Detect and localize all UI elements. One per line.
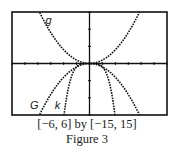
curve-label-g: g [46,14,53,26]
figure-label: Figure 3 [0,132,174,147]
window-caption: [−6, 6] by [−15, 15] [0,117,174,132]
figure: gGk [−6, 6] by [−15, 15] Figure 3 [0,0,174,159]
curve-label-k: k [55,99,61,111]
curve-label-G: G [30,99,39,111]
